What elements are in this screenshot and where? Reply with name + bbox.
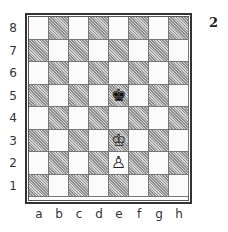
square-b3[interactable] — [49, 130, 69, 153]
square-g7[interactable] — [149, 40, 169, 63]
rank-label: 2 — [8, 156, 18, 170]
square-c5[interactable] — [69, 85, 89, 108]
square-h5[interactable] — [169, 85, 189, 108]
square-d4[interactable] — [89, 107, 109, 130]
square-h7[interactable] — [169, 40, 189, 63]
square-h8[interactable] — [169, 17, 189, 40]
square-h2[interactable] — [169, 152, 189, 175]
square-c4[interactable] — [69, 107, 89, 130]
square-a8[interactable] — [29, 17, 49, 40]
square-b7[interactable] — [49, 40, 69, 63]
square-c2[interactable] — [69, 152, 89, 175]
square-g6[interactable] — [149, 62, 169, 85]
file-label: a — [29, 207, 49, 221]
file-label: f — [129, 207, 149, 221]
square-f2[interactable] — [129, 152, 149, 175]
square-b5[interactable] — [49, 85, 69, 108]
square-a2[interactable] — [29, 152, 49, 175]
square-a3[interactable] — [29, 130, 49, 153]
square-g3[interactable] — [149, 130, 169, 153]
rank-label: 8 — [8, 21, 18, 35]
square-d2[interactable] — [89, 152, 109, 175]
white-king-icon[interactable]: ♔ — [109, 130, 128, 152]
white-pawn-icon[interactable]: ♙ — [109, 152, 128, 174]
square-a7[interactable] — [29, 40, 49, 63]
square-a4[interactable] — [29, 107, 49, 130]
square-d3[interactable] — [89, 130, 109, 153]
diagram-number: 2 — [209, 15, 218, 30]
square-g8[interactable] — [149, 17, 169, 40]
square-a6[interactable] — [29, 62, 49, 85]
rank-label: 6 — [8, 66, 18, 80]
file-label: d — [89, 207, 109, 221]
square-c7[interactable] — [69, 40, 89, 63]
square-b4[interactable] — [49, 107, 69, 130]
square-d5[interactable] — [89, 85, 109, 108]
square-f4[interactable] — [129, 107, 149, 130]
square-b2[interactable] — [49, 152, 69, 175]
square-h4[interactable] — [169, 107, 189, 130]
square-e4[interactable] — [109, 107, 129, 130]
square-g4[interactable] — [149, 107, 169, 130]
square-h3[interactable] — [169, 130, 189, 153]
square-e7[interactable] — [109, 40, 129, 63]
rank-label: 7 — [8, 44, 18, 58]
file-label: e — [109, 207, 129, 221]
square-a5[interactable] — [29, 85, 49, 108]
file-label: c — [69, 207, 89, 221]
square-c1[interactable] — [69, 175, 89, 198]
square-f6[interactable] — [129, 62, 149, 85]
square-f8[interactable] — [129, 17, 149, 40]
square-d7[interactable] — [89, 40, 109, 63]
square-b1[interactable] — [49, 175, 69, 198]
chess-board: ♚♔♙ — [29, 17, 189, 197]
square-c3[interactable] — [69, 130, 89, 153]
square-d1[interactable] — [89, 175, 109, 198]
square-d6[interactable] — [89, 62, 109, 85]
square-e8[interactable] — [109, 17, 129, 40]
square-g1[interactable] — [149, 175, 169, 198]
square-f5[interactable] — [129, 85, 149, 108]
square-g2[interactable] — [149, 152, 169, 175]
square-a1[interactable] — [29, 175, 49, 198]
square-g5[interactable] — [149, 85, 169, 108]
square-c8[interactable] — [69, 17, 89, 40]
square-d8[interactable] — [89, 17, 109, 40]
rank-label: 5 — [8, 89, 18, 103]
square-b8[interactable] — [49, 17, 69, 40]
square-b6[interactable] — [49, 62, 69, 85]
square-h6[interactable] — [169, 62, 189, 85]
square-f1[interactable] — [129, 175, 149, 198]
rank-label: 1 — [8, 179, 18, 193]
square-e1[interactable] — [109, 175, 129, 198]
rank-label: 4 — [8, 111, 18, 125]
black-king-icon[interactable]: ♚ — [109, 85, 128, 107]
file-label: g — [149, 207, 169, 221]
file-label: h — [169, 207, 189, 221]
square-c6[interactable] — [69, 62, 89, 85]
square-f7[interactable] — [129, 40, 149, 63]
file-label: b — [49, 207, 69, 221]
square-h1[interactable] — [169, 175, 189, 198]
square-e6[interactable] — [109, 62, 129, 85]
square-e2[interactable]: ♙ — [109, 152, 129, 175]
rank-label: 3 — [8, 134, 18, 148]
square-e5[interactable]: ♚ — [109, 85, 129, 108]
square-f3[interactable] — [129, 130, 149, 153]
square-e3[interactable]: ♔ — [109, 130, 129, 153]
